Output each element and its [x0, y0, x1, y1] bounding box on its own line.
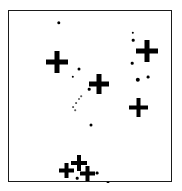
- cross-marker-vertical-bar: [97, 74, 102, 94]
- dot-marker: [57, 21, 60, 24]
- streak-dot-marker: [72, 106, 74, 108]
- dot-marker: [78, 68, 81, 71]
- cross-marker: [89, 74, 109, 94]
- dot-marker: [131, 62, 134, 65]
- cross-marker-vertical-bar: [85, 166, 89, 181]
- cross-marker: [80, 166, 95, 181]
- dot-marker: [88, 88, 91, 91]
- cross-marker: [46, 51, 68, 73]
- cross-marker-vertical-bar: [136, 98, 140, 117]
- plot-frame: [8, 10, 172, 182]
- dot-marker: [132, 39, 135, 42]
- plot-area: [9, 11, 173, 183]
- dot-marker: [107, 182, 110, 184]
- dot-marker: [76, 177, 79, 180]
- cross-marker-vertical-bar: [145, 40, 150, 62]
- dot-marker: [136, 78, 140, 82]
- streak-dot-marker: [80, 95, 82, 97]
- cross-marker: [136, 40, 158, 62]
- dot-marker: [96, 172, 99, 175]
- cross-marker-vertical-bar: [55, 51, 60, 73]
- cross-marker: [129, 98, 148, 117]
- dot-marker: [90, 124, 93, 127]
- streak-dot-marker: [75, 102, 77, 104]
- dot-marker: [147, 76, 150, 79]
- dot-marker: [132, 32, 134, 34]
- dot-marker: [72, 76, 74, 78]
- streak-dot-marker: [74, 109, 76, 111]
- scatter-figure: [0, 0, 182, 191]
- cross-marker-vertical-bar: [64, 163, 68, 178]
- streak-dot-marker: [78, 98, 80, 100]
